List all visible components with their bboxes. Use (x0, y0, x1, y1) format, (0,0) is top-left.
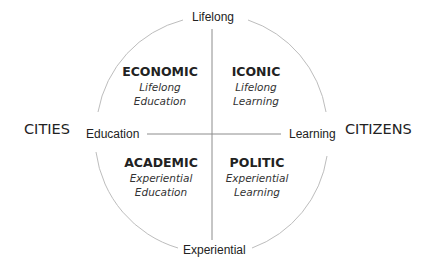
axis-label-left: Education (86, 127, 139, 141)
quadrant-politic: POLITIC Experiential Learning (202, 155, 312, 199)
quadrant-title: ECONOMIC (105, 64, 215, 80)
quadrant-iconic: ICONIC Lifelong Learning (201, 64, 311, 108)
axis-label-bottom: Experiential (183, 243, 246, 257)
axis-label-top: Lifelong (192, 10, 234, 24)
quadrant-line2: Learning (202, 185, 312, 199)
quadrant-title: ICONIC (201, 64, 311, 80)
quadrant-line1: Experiential (202, 171, 312, 185)
quadrant-line1: Lifelong (201, 80, 311, 94)
quadrant-title: POLITIC (202, 155, 312, 171)
quadrant-line1: Lifelong (105, 80, 215, 94)
quadrant-title: ACADEMIC (106, 155, 216, 171)
quadrant-line2: Education (105, 94, 215, 108)
quadrant-line2: Education (106, 185, 216, 199)
quadrant-economic: ECONOMIC Lifelong Education (105, 64, 215, 108)
quadrant-line1: Experiential (106, 171, 216, 185)
quadrant-line2: Learning (201, 94, 311, 108)
side-label-cities: CITIES (24, 121, 70, 137)
axis-label-right: Learning (289, 127, 336, 141)
side-label-citizens: CITIZENS (345, 121, 412, 137)
quadrant-academic: ACADEMIC Experiential Education (106, 155, 216, 199)
